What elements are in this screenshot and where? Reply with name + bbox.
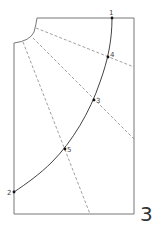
- point-1: [111, 17, 114, 20]
- pattern-outline: [14, 18, 134, 214]
- dashed-line-b: [33, 38, 134, 139]
- point-5: [64, 148, 67, 151]
- point-label-3: 3: [96, 97, 100, 105]
- dashed-line-a: [36, 28, 134, 67]
- curve-line: [14, 18, 112, 192]
- point-label-1: 1: [109, 9, 113, 17]
- pattern-diagram: 1 4 3 5 2 3: [0, 0, 154, 231]
- point-2: [13, 191, 16, 194]
- point-label-2: 2: [7, 189, 11, 197]
- point-label-4: 4: [110, 51, 115, 59]
- dashed-guide-lines: [23, 28, 134, 214]
- point-4: [107, 56, 110, 59]
- figure-number: 3: [140, 202, 153, 226]
- dashed-line-c: [23, 42, 90, 214]
- points: [13, 17, 114, 194]
- point-label-5: 5: [67, 146, 71, 154]
- point-3: [93, 99, 96, 102]
